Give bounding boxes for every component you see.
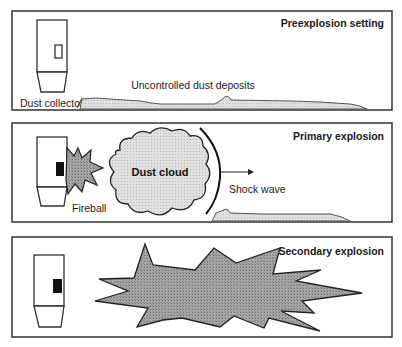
label-dust-collector: Dust collector [20, 97, 84, 109]
collector-window-breached [53, 279, 62, 293]
label-dust-deposits: Uncontrolled dust deposits [131, 79, 255, 91]
label-fireball: Fireball [72, 202, 106, 214]
panel-primary-explosion: Primary explosion Fireball Dust cloud Sh… [12, 123, 392, 222]
dust-collector [37, 20, 67, 92]
label-shock-wave: Shock wave [229, 183, 286, 195]
collector-hopper [37, 72, 67, 92]
panel-secondary-explosion: Secondary explosion [12, 237, 392, 337]
collector-window [55, 45, 62, 58]
dust-collector [34, 255, 64, 327]
panel-preexplosion: Preexplosion setting Dust collector Unco… [12, 11, 392, 110]
label-dust-cloud: Dust cloud [132, 166, 189, 178]
dust-explosion-diagram: Preexplosion setting Dust collector Unco… [0, 0, 402, 347]
collector-hopper [37, 187, 67, 206]
dust-collector [37, 137, 67, 206]
collector-window-breached [56, 162, 64, 176]
panel-title: Primary explosion [293, 130, 384, 142]
panel-title: Preexplosion setting [281, 17, 384, 29]
panel-title: Secondary explosion [278, 245, 384, 257]
collector-hopper [34, 306, 64, 327]
